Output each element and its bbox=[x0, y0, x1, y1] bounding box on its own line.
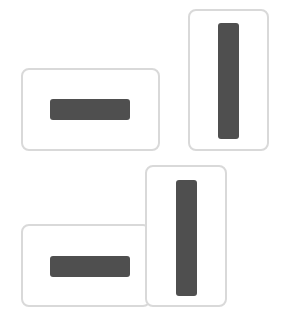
vertical-bar-icon bbox=[218, 23, 239, 139]
vertical-bar-icon bbox=[176, 180, 197, 296]
horizontal-bar-icon bbox=[50, 256, 130, 277]
landscape-card bbox=[21, 68, 160, 151]
portrait-card bbox=[145, 165, 227, 307]
landscape-card bbox=[21, 224, 151, 307]
horizontal-bar-icon bbox=[50, 99, 130, 120]
portrait-card bbox=[188, 9, 269, 151]
